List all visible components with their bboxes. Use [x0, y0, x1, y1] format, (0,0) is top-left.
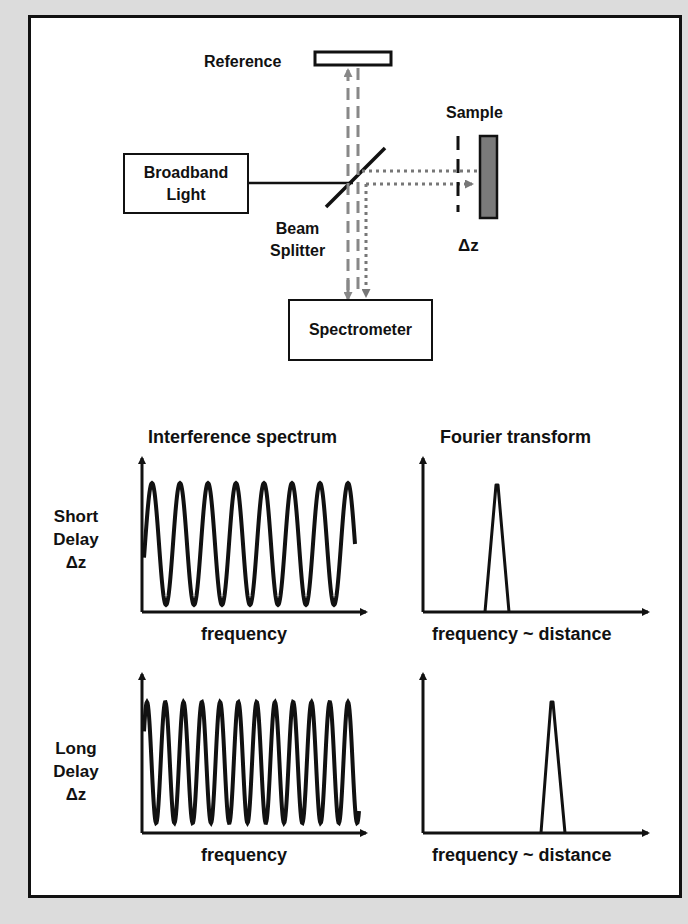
diagram-canvas	[0, 0, 688, 924]
light-label-line1: Broadband	[144, 162, 228, 184]
delta-z-label: Δz	[458, 236, 479, 256]
reference-label: Reference	[204, 53, 281, 71]
xlabel-ft-short: frequency ~ distance	[432, 624, 612, 645]
beam-splitter-label: Beam Splitter	[270, 218, 325, 262]
ft-peak-short	[485, 485, 509, 612]
sample-label: Sample	[446, 104, 503, 122]
col-title-spectrum: Interference spectrum	[148, 427, 337, 448]
col-title-ft: Fourier transform	[440, 427, 591, 448]
beam-splitter-icon	[326, 148, 385, 207]
xlabel-spectrum-short: frequency	[201, 624, 287, 645]
interference-wave-short	[144, 483, 355, 605]
sample-beam	[362, 171, 478, 296]
light-label-line2: Light	[166, 184, 205, 206]
sample-block	[480, 136, 497, 218]
broadband-light-box: Broadband Light	[123, 153, 249, 214]
plot-axes	[142, 458, 648, 833]
xlabel-spectrum-long: frequency	[201, 845, 287, 866]
ft-peak-long	[541, 702, 565, 833]
row-label-long: Long Delay Δz	[50, 737, 102, 806]
interference-wave-long	[144, 702, 359, 823]
xlabel-ft-long: frequency ~ distance	[432, 845, 612, 866]
row-label-short: Short Delay Δz	[50, 505, 102, 574]
spectrometer-box: Spectrometer	[288, 299, 433, 361]
reference-mirror	[315, 52, 391, 65]
